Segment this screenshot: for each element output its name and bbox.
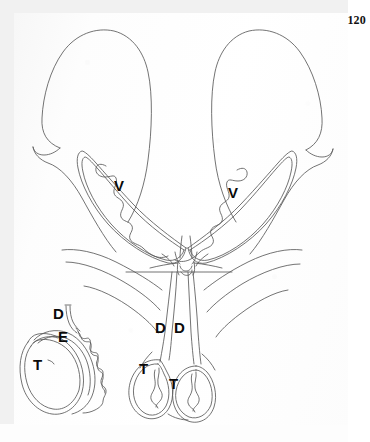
inset-internal-mark <box>48 360 54 364</box>
inset-testis <box>20 334 84 415</box>
left-testis-lower <box>129 360 173 419</box>
left-ductus-deferens-strand <box>160 272 177 362</box>
inset-epididymis-coil <box>76 328 106 413</box>
pelvic-fold-right <box>204 250 302 338</box>
right-ductus-deferens-strand <box>188 272 201 364</box>
scanned-page-canvas: 120 <box>0 0 370 442</box>
right-testis-lower <box>173 366 216 422</box>
left-lobe-outline <box>33 30 151 252</box>
pelvic-fold-left <box>62 250 162 334</box>
label-e-inset: E <box>58 329 68 344</box>
label-d-inset: D <box>53 306 64 321</box>
anatomy-figure <box>0 0 370 442</box>
label-t-inset: T <box>33 357 42 372</box>
label-t-lower-right: T <box>169 376 178 391</box>
left-seminal-vesicle-capsule <box>77 151 186 263</box>
label-v-left: V <box>114 178 124 193</box>
label-t-lower-left: T <box>139 361 148 376</box>
label-d-mid-left: D <box>155 320 166 335</box>
label-v-right: V <box>228 185 238 200</box>
label-d-mid-right: D <box>174 320 185 335</box>
